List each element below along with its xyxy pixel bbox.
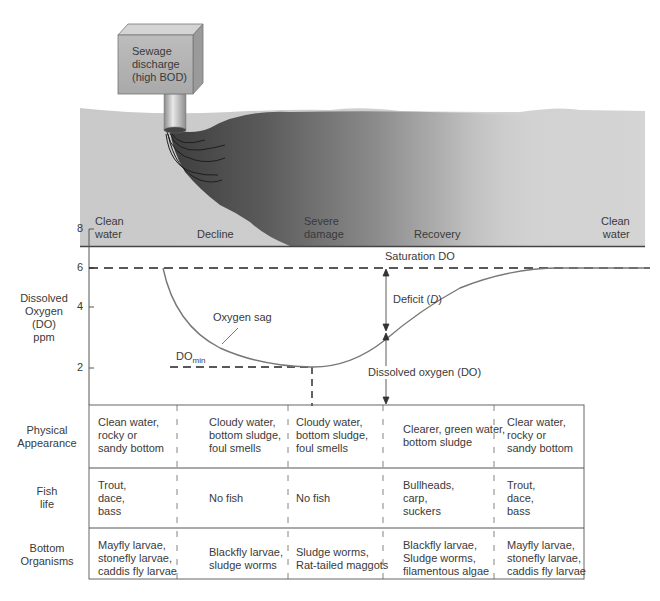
table-cell: No fish <box>296 492 330 505</box>
row-label-bottom-organisms: Bottom Organisms <box>14 542 80 568</box>
domin-label: DOmin <box>176 350 205 367</box>
ytick-8: 8 <box>77 222 83 235</box>
oxygen-sag-label: Oxygen sag <box>213 311 272 324</box>
discharge-pipe <box>164 94 186 133</box>
zone-label-recovery: Recovery <box>414 228 460 241</box>
zone-label-clean-water-start: Clean water <box>95 215 124 241</box>
deficit-arrow <box>383 269 389 331</box>
table-cell: Clean water, rocky or sandy bottom <box>98 416 164 455</box>
table-cell: Mayfly larvae, stonefly larvae, caddis f… <box>507 539 586 578</box>
table-cell: Trout, dace, bass <box>507 479 535 518</box>
row-label-fish-life: Fish life <box>14 485 80 511</box>
sewage-box-label: Sewage discharge (high BOD) <box>132 45 202 84</box>
table-cell: Trout, dace, bass <box>98 479 126 518</box>
zone-label-clean-water-end: Clean water <box>601 215 630 241</box>
y-axis-label: Dissolved Oxygen (DO) ppm <box>8 292 80 344</box>
zone-label-decline: Decline <box>197 228 234 241</box>
table-cell: Cloudy water, bottom sludge, foul smells <box>209 416 281 455</box>
table-cell: Blackfly larvae, Sludge worms, filamento… <box>403 539 489 578</box>
ytick-6: 6 <box>77 261 83 274</box>
zone-label-severe-damage: Severe damage <box>304 215 344 241</box>
table-cell: Cloudy water, bottom sludge, foul smells <box>296 416 368 455</box>
saturation-do-label: Saturation DO <box>385 250 455 263</box>
table-cell: Mayfly larvae, stonefly larvae, caddis f… <box>98 539 177 578</box>
ytick-2: 2 <box>77 361 83 374</box>
table-cell: Sludge worms, Rat-tailed maggots <box>296 546 388 572</box>
chart-axes <box>89 229 94 405</box>
dissolved-oxygen-label: Dissolved oxygen (DO) <box>366 366 483 379</box>
table-cell: Bullheads, carp, suckers <box>403 479 454 518</box>
deficit-label: Deficit (D) <box>393 293 442 306</box>
row-label-physical-appearance: Physical Appearance <box>14 424 80 450</box>
table-cell: No fish <box>209 492 243 505</box>
table-cell: Clear water, rocky or sandy bottom <box>507 416 573 455</box>
table-cell: Clearer, green water, bottom sludge <box>403 423 505 449</box>
table-cell: Blackfly larvae, sludge worms <box>209 546 283 572</box>
